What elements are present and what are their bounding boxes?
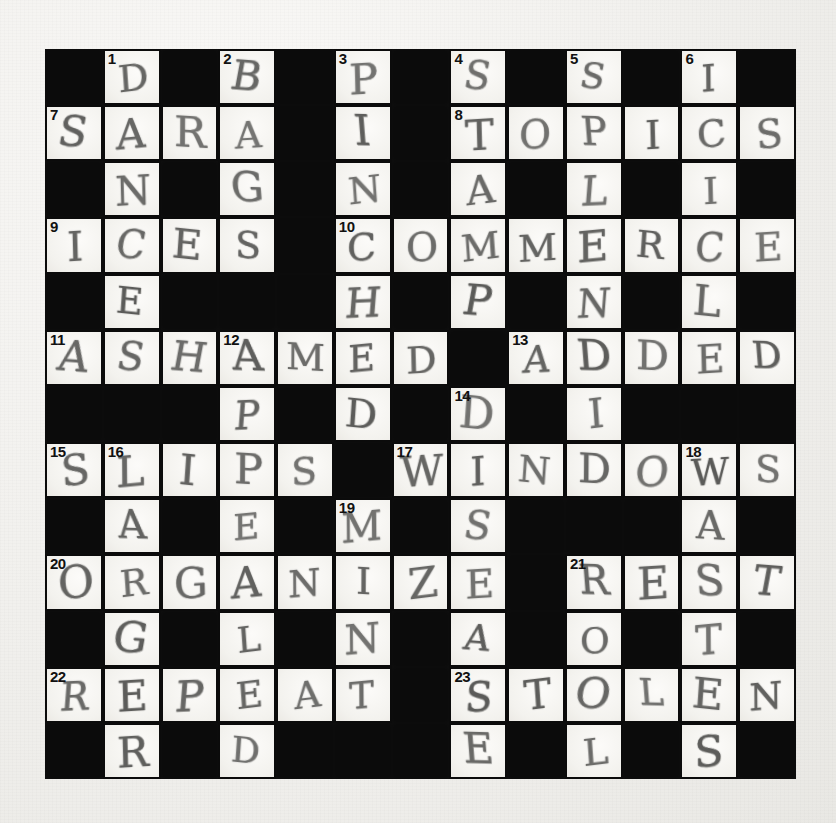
grid-letter-cell[interactable]: T — [334, 667, 392, 723]
grid-letter-cell[interactable]: A — [218, 554, 276, 610]
grid-letter-cell[interactable]: 6I — [680, 49, 738, 105]
grid-letter-cell[interactable]: A — [680, 498, 738, 554]
grid-letter-cell[interactable]: E — [334, 330, 392, 386]
grid-letter-cell[interactable]: E — [218, 498, 276, 554]
grid-letter-cell[interactable]: I — [449, 442, 507, 498]
grid-letter-cell[interactable]: 22R — [45, 667, 103, 723]
grid-letter-cell[interactable]: N — [103, 161, 161, 217]
grid-letter-cell[interactable]: E — [103, 667, 161, 723]
grid-letter-cell[interactable]: D — [565, 442, 623, 498]
grid-letter-cell[interactable]: E — [103, 274, 161, 330]
grid-letter-cell[interactable]: T — [738, 554, 796, 610]
grid-letter-cell[interactable]: 20O — [45, 554, 103, 610]
grid-letter-cell[interactable]: L — [565, 161, 623, 217]
grid-letter-cell[interactable]: P — [449, 274, 507, 330]
grid-letter-cell[interactable]: G — [103, 611, 161, 667]
grid-letter-cell[interactable]: I — [680, 161, 738, 217]
grid-letter-cell[interactable]: E — [218, 667, 276, 723]
grid-letter-cell[interactable]: 10C — [334, 217, 392, 273]
grid-letter-cell[interactable]: 3P — [334, 49, 392, 105]
grid-letter-cell[interactable]: L — [680, 274, 738, 330]
crossword-grid[interactable]: 1D2B3P4S5S6I7SARAI8TOPICSNGNALI9ICES10CO… — [45, 49, 796, 779]
grid-letter-cell[interactable]: I — [161, 442, 219, 498]
grid-letter-cell[interactable]: G — [218, 161, 276, 217]
grid-letter-cell[interactable]: P — [218, 442, 276, 498]
grid-letter-cell[interactable]: E — [449, 723, 507, 779]
grid-letter-cell[interactable]: S — [218, 217, 276, 273]
grid-letter-cell[interactable]: 8T — [449, 105, 507, 161]
grid-letter-cell[interactable]: O — [392, 217, 450, 273]
grid-letter-cell[interactable]: E — [680, 667, 738, 723]
grid-letter-cell[interactable]: E — [623, 554, 681, 610]
grid-letter-cell[interactable]: 12A — [218, 330, 276, 386]
grid-letter-cell[interactable]: D — [623, 330, 681, 386]
grid-letter-cell[interactable]: S — [738, 105, 796, 161]
grid-letter-cell[interactable]: D — [392, 330, 450, 386]
grid-letter-cell[interactable]: S — [738, 442, 796, 498]
grid-letter-cell[interactable]: S — [449, 498, 507, 554]
grid-letter-cell[interactable]: M — [276, 330, 334, 386]
grid-letter-cell[interactable]: P — [161, 667, 219, 723]
grid-letter-cell[interactable]: E — [680, 330, 738, 386]
grid-letter-cell[interactable]: 9I — [45, 217, 103, 273]
grid-letter-cell[interactable]: S — [103, 330, 161, 386]
grid-letter-cell[interactable]: E — [161, 217, 219, 273]
grid-letter-cell[interactable]: N — [738, 667, 796, 723]
grid-letter-cell[interactable]: 15S — [45, 442, 103, 498]
grid-letter-cell[interactable]: O — [565, 611, 623, 667]
grid-letter-cell[interactable]: H — [334, 274, 392, 330]
grid-letter-cell[interactable]: N — [334, 611, 392, 667]
grid-letter-cell[interactable]: C — [103, 217, 161, 273]
grid-letter-cell[interactable]: N — [507, 442, 565, 498]
grid-letter-cell[interactable]: I — [334, 554, 392, 610]
grid-letter-cell[interactable]: S — [680, 554, 738, 610]
grid-letter-cell[interactable]: D — [565, 330, 623, 386]
grid-letter-cell[interactable]: E — [738, 217, 796, 273]
grid-letter-cell[interactable]: N — [565, 274, 623, 330]
grid-letter-cell[interactable]: P — [565, 105, 623, 161]
grid-letter-cell[interactable]: 14D — [449, 386, 507, 442]
grid-letter-cell[interactable]: R — [103, 723, 161, 779]
grid-letter-cell[interactable]: D — [218, 723, 276, 779]
grid-letter-cell[interactable]: 18W — [680, 442, 738, 498]
grid-letter-cell[interactable]: N — [276, 554, 334, 610]
grid-letter-cell[interactable]: 11A — [45, 330, 103, 386]
grid-letter-cell[interactable]: 2B — [218, 49, 276, 105]
grid-letter-cell[interactable]: M — [507, 217, 565, 273]
grid-letter-cell[interactable]: H — [161, 330, 219, 386]
grid-letter-cell[interactable]: E — [449, 554, 507, 610]
grid-letter-cell[interactable]: C — [680, 217, 738, 273]
grid-letter-cell[interactable]: G — [161, 554, 219, 610]
grid-letter-cell[interactable]: 21R — [565, 554, 623, 610]
grid-letter-cell[interactable]: S — [680, 723, 738, 779]
grid-letter-cell[interactable]: O — [565, 667, 623, 723]
grid-letter-cell[interactable]: 19M — [334, 498, 392, 554]
grid-letter-cell[interactable]: D — [334, 386, 392, 442]
grid-letter-cell[interactable]: Z — [392, 554, 450, 610]
grid-letter-cell[interactable]: 5S — [565, 49, 623, 105]
grid-letter-cell[interactable]: T — [507, 667, 565, 723]
grid-letter-cell[interactable]: O — [623, 442, 681, 498]
grid-letter-cell[interactable]: L — [218, 611, 276, 667]
grid-letter-cell[interactable]: A — [449, 161, 507, 217]
grid-letter-cell[interactable]: 13A — [507, 330, 565, 386]
grid-letter-cell[interactable]: M — [449, 217, 507, 273]
grid-letter-cell[interactable]: L — [623, 667, 681, 723]
grid-letter-cell[interactable]: 16L — [103, 442, 161, 498]
grid-letter-cell[interactable]: A — [103, 498, 161, 554]
grid-letter-cell[interactable]: R — [161, 105, 219, 161]
grid-letter-cell[interactable]: I — [565, 386, 623, 442]
grid-letter-cell[interactable]: A — [103, 105, 161, 161]
grid-letter-cell[interactable]: I — [623, 105, 681, 161]
grid-letter-cell[interactable]: O — [507, 105, 565, 161]
grid-letter-cell[interactable]: E — [565, 217, 623, 273]
grid-letter-cell[interactable]: 4S — [449, 49, 507, 105]
grid-letter-cell[interactable]: I — [334, 105, 392, 161]
grid-letter-cell[interactable]: C — [680, 105, 738, 161]
grid-letter-cell[interactable]: N — [334, 161, 392, 217]
grid-letter-cell[interactable]: D — [738, 330, 796, 386]
grid-letter-cell[interactable]: 1D — [103, 49, 161, 105]
grid-letter-cell[interactable]: 17W — [392, 442, 450, 498]
grid-letter-cell[interactable]: 23S — [449, 667, 507, 723]
grid-letter-cell[interactable]: L — [565, 723, 623, 779]
